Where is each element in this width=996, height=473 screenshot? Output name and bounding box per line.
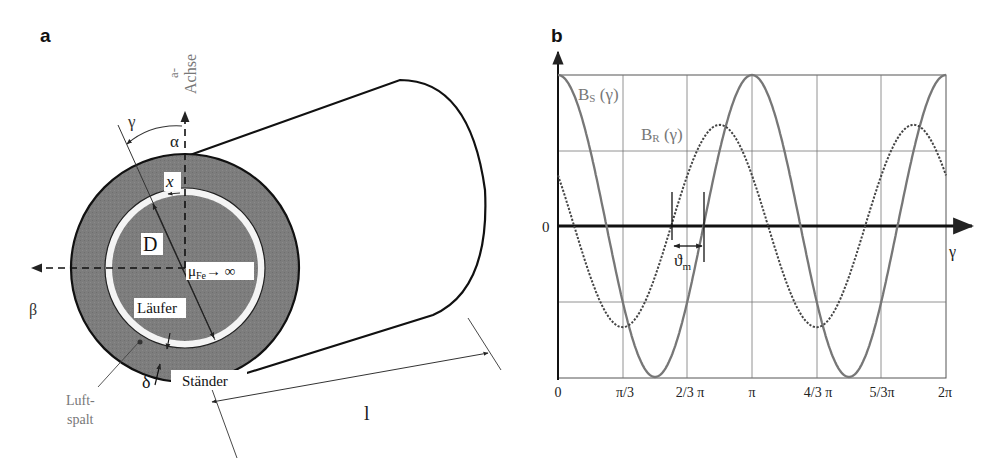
bs-label: BS (γ)	[578, 85, 619, 104]
panel-a-label: a	[40, 25, 51, 46]
panel-b-label: b	[551, 25, 563, 46]
alpha-label: α	[170, 132, 179, 151]
length-label: l	[364, 402, 370, 424]
airgap-dot	[138, 340, 143, 345]
diameter-label: D	[143, 233, 157, 255]
x-tick-3: π	[748, 385, 755, 400]
a-axis-label-line1: a-	[166, 68, 181, 78]
x-tick-2: 2/3 π	[676, 385, 704, 400]
rotor-label: Läufer	[137, 300, 177, 316]
figure-canvas: a a- Achse γ α β	[0, 0, 996, 473]
gamma-label: γ	[127, 112, 136, 131]
x-tick-5: 5/3π	[870, 385, 895, 400]
x-tick-1: π/3	[616, 385, 634, 400]
theta-m-label: ϑm	[674, 251, 691, 272]
beta-label: β	[29, 301, 37, 319]
gamma-axis-label: γ	[948, 243, 956, 261]
x-tick-6: 2π	[938, 385, 952, 400]
br-label: BR (γ)	[641, 125, 683, 144]
x-tick-4: 4/3 π	[804, 385, 832, 400]
a-axis-label-line2: Achse	[182, 54, 199, 94]
panel-a: a a- Achse γ α β	[29, 25, 501, 458]
panel-b: b 0 γ BS (γ) BR (γ)	[542, 25, 972, 400]
length-ext-left	[210, 384, 237, 458]
airgap-label-line1: Luft-	[66, 393, 95, 408]
x-tick-labels: 0 π/3 2/3 π π 4/3 π 5/3π 2π	[555, 385, 953, 400]
length-ext-right	[468, 318, 501, 370]
delta-label: δ	[142, 372, 150, 392]
airgap-label-line2: spalt	[67, 412, 94, 427]
x-tick-0: 0	[555, 385, 562, 400]
mu-label: μFe→ ∞	[188, 263, 236, 281]
x-label: x	[165, 172, 174, 191]
zero-label: 0	[542, 219, 550, 235]
stator-label: Ständer	[182, 373, 228, 389]
